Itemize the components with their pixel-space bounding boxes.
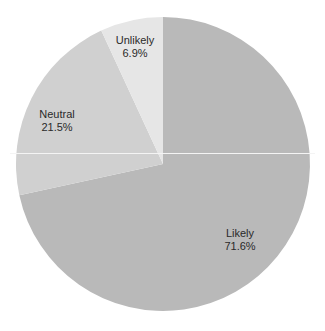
- slice-label-neutral: Neutral 21.5%: [39, 108, 74, 134]
- slice-label-neutral-value: 21.5%: [39, 121, 74, 134]
- pie-slices: [16, 17, 310, 311]
- slice-label-likely-name: Likely: [224, 227, 255, 240]
- slice-label-likely-value: 71.6%: [224, 240, 255, 253]
- slice-label-unlikely-value: 6.9%: [116, 47, 155, 60]
- scan-artifact-line: [10, 153, 315, 154]
- slice-label-unlikely: Unlikely 6.9%: [116, 34, 155, 60]
- slice-label-neutral-name: Neutral: [39, 108, 74, 121]
- slice-label-likely: Likely 71.6%: [224, 227, 255, 253]
- slice-label-unlikely-name: Unlikely: [116, 34, 155, 47]
- pie-chart: [0, 0, 325, 331]
